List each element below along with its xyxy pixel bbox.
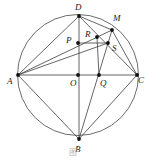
segment-B-M <box>79 30 112 139</box>
point-label-S: S <box>112 44 117 53</box>
point-label-Q: Q <box>100 79 107 88</box>
geometry-figure: A B C D M O P Q R S 图 <box>0 0 145 161</box>
point-label-M: M <box>113 14 121 23</box>
figure-caption: 图 <box>0 148 145 158</box>
point-P <box>76 41 80 45</box>
point-label-R: R <box>85 30 91 39</box>
point-D <box>77 14 81 18</box>
point-B <box>77 137 81 141</box>
point-label-A: A <box>7 77 13 86</box>
point-S <box>106 41 110 45</box>
point-A <box>16 73 20 77</box>
segments-group <box>18 16 137 139</box>
segment-A-D <box>18 16 79 75</box>
point-O <box>76 73 80 77</box>
point-label-O: O <box>70 79 77 88</box>
segment-D-M <box>79 16 112 30</box>
point-label-D: D <box>75 3 82 12</box>
point-label-P: P <box>66 36 72 45</box>
point-Q <box>97 73 101 77</box>
segment-B-C <box>79 75 137 139</box>
point-M <box>110 28 114 32</box>
point-R <box>95 35 99 39</box>
segment-D-C <box>79 16 137 75</box>
segment-A-S <box>18 43 108 75</box>
point-label-C: C <box>138 76 144 85</box>
